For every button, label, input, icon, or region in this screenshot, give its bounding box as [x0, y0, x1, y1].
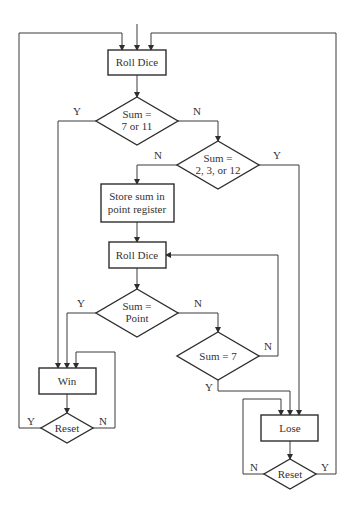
store-line1: Store sum in [109, 190, 165, 202]
dec2-yes-label: Y [273, 149, 281, 161]
reset2-yes-label: Y [321, 461, 329, 473]
node-sum-7-or-11: Sum = 7 or 11 [96, 97, 178, 145]
dec2-line2: 2, 3, or 12 [196, 164, 241, 176]
reset1-label: Reset [55, 422, 79, 434]
dec4-label: Sum = 7 [199, 350, 237, 362]
dec3-no-to-dec4 [178, 313, 218, 332]
store-line2: point register [108, 203, 167, 215]
dec2-no-label: N [154, 149, 162, 161]
node-store-sum: Store sum in point register [101, 184, 174, 222]
reset1-yes-label: Y [27, 415, 35, 427]
node-sum-2-3-12: Sum = 2, 3, or 12 [177, 141, 259, 189]
reset1-no-label: N [99, 415, 107, 427]
roll-dice-2-label: Roll Dice [116, 249, 159, 261]
dec1-line1: Sum = [122, 108, 151, 120]
craps-flowchart: Roll Dice Sum = 7 or 11 Sum = 2, 3, or 1… [0, 0, 354, 507]
dec4-yes-label: Y [205, 381, 213, 393]
dec1-no-label: N [193, 105, 201, 117]
dec2-yes-to-lose [259, 165, 299, 415]
dec3-line1: Sum = [122, 300, 151, 312]
dec3-line2: Point [125, 312, 148, 324]
reset2-label: Reset [278, 468, 302, 480]
node-roll-dice-2: Roll Dice [109, 242, 166, 268]
dec1-yes-label: Y [73, 105, 81, 117]
node-roll-dice-1: Roll Dice [108, 50, 166, 75]
node-reset-1: Reset [41, 413, 93, 443]
reset2-no-label: N [250, 461, 258, 473]
node-reset-2: Reset [264, 459, 316, 489]
node-win: Win [39, 368, 96, 394]
roll-dice-1-label: Roll Dice [116, 56, 159, 68]
dec4-yes-to-lose [218, 380, 290, 415]
dec3-yes-label: Y [77, 297, 85, 309]
connectors [19, 24, 336, 474]
dec4-no-label: N [264, 340, 272, 352]
dec2-no-to-store [137, 165, 177, 184]
dec1-yes-to-win [58, 121, 96, 368]
node-sum-point: Sum = Point [96, 289, 178, 337]
dec1-no-to-dec2 [178, 121, 218, 141]
dec2-line1: Sum = [203, 152, 232, 164]
node-sum-7: Sum = 7 [177, 332, 259, 380]
dec3-yes-to-win [67, 313, 96, 368]
win-label: Win [58, 375, 77, 387]
node-lose: Lose [261, 415, 318, 441]
lose-label: Lose [279, 422, 301, 434]
dec3-no-label: N [194, 297, 202, 309]
dec1-line2: 7 or 11 [122, 120, 153, 132]
